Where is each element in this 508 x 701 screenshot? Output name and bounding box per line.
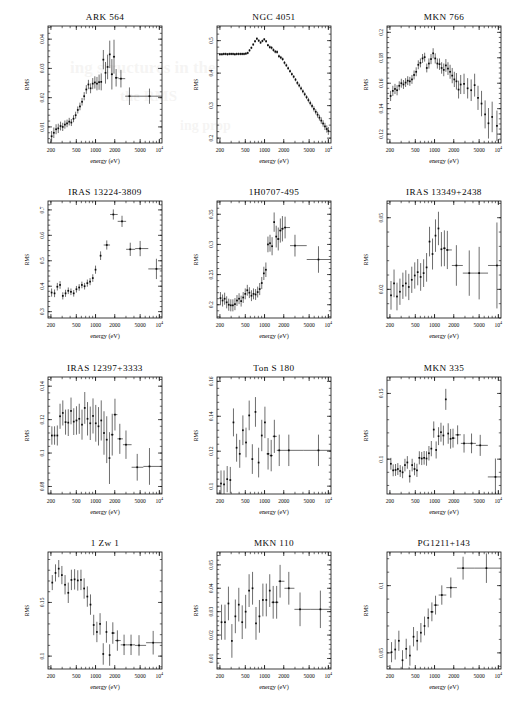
- x-tick-label: 5000: [473, 673, 484, 679]
- y-tick-label: 0.03: [208, 606, 214, 616]
- x-tick-label: 1000: [259, 673, 270, 679]
- y-tick-label: 0.2: [208, 134, 214, 141]
- y-axis-label: RMS: [24, 254, 30, 265]
- x-tick-label: 2000: [448, 498, 459, 504]
- x-tick-label: 200: [47, 322, 56, 328]
- x-tick-label: 500: [241, 147, 250, 153]
- x-tick-label: 200: [216, 498, 225, 504]
- plot-frame: [217, 552, 331, 669]
- x-tick-label: 2000: [448, 147, 459, 153]
- x-axis-label: energy (eV): [260, 332, 290, 340]
- plot-frame: [217, 26, 331, 143]
- y-tick-label: 0.12: [378, 129, 384, 139]
- y-tick-label: 0.05: [208, 560, 214, 570]
- panel-title: IRAS 12397+3333: [67, 363, 143, 373]
- panel-title: PG1211+143: [417, 538, 470, 548]
- y-tick-label: 0.2: [208, 301, 214, 308]
- x-tick-label: 1000: [429, 147, 440, 153]
- x-tick-label: 200: [385, 322, 394, 328]
- y-tick-label: 0.3: [208, 102, 214, 109]
- y-tick-label: 0.18: [378, 53, 384, 63]
- chart-panel-6: 2005001000200050001040.020.05IRAS 13349+…: [339, 175, 508, 350]
- y-axis-label: RMS: [193, 254, 199, 265]
- chart-panel-7: 2005001000200050001040.080.10.120.14IRAS…: [0, 351, 169, 526]
- x-axis-label: energy (eV): [429, 157, 459, 165]
- x-tick-label: 104: [325, 496, 334, 504]
- data-series: [220, 397, 331, 498]
- y-axis-label: RMS: [193, 605, 199, 616]
- y-tick-label: 0.16: [208, 376, 214, 386]
- chart-panel-8: 2005001000200050001040.10.120.140.16Ton …: [169, 351, 338, 526]
- x-axis-label: energy (eV): [260, 508, 290, 516]
- y-tick-label: 0.4: [39, 283, 45, 290]
- data-series: [221, 565, 331, 658]
- data-series: [390, 553, 500, 670]
- y-tick-label: 0.16: [378, 78, 384, 88]
- plot-frame: [48, 201, 162, 318]
- x-tick-label: 200: [47, 498, 56, 504]
- x-tick-label: 200: [385, 673, 394, 679]
- data-series: [390, 388, 501, 494]
- x-tick-label: 5000: [304, 498, 315, 504]
- chart-panel-3: 2005001000200050001040.120.140.160.180.2…: [339, 0, 508, 175]
- chart-panel-2: 2005001000200050001040.20.30.40.5NGC 405…: [169, 0, 338, 175]
- x-axis-label: energy (eV): [90, 332, 120, 340]
- panel-title: Ton S 180: [254, 363, 295, 373]
- x-tick-label: 1000: [90, 147, 101, 153]
- x-tick-label: 2000: [109, 498, 120, 504]
- panel-title: 1H0707-495: [249, 188, 299, 198]
- data-series: [51, 40, 162, 142]
- chart-panel-11: 2005001000200050001040.010.020.030.040.0…: [169, 526, 338, 701]
- plot-frame: [48, 377, 162, 494]
- x-axis-label: energy (eV): [429, 332, 459, 340]
- x-tick-label: 2000: [448, 322, 459, 328]
- x-tick-label: 500: [241, 673, 250, 679]
- x-axis-label: energy (eV): [260, 157, 290, 165]
- x-tick-label: 104: [325, 321, 334, 329]
- x-tick-label: 500: [411, 322, 420, 328]
- x-tick-label: 5000: [135, 322, 146, 328]
- data-series: [219, 37, 329, 135]
- x-axis-label: energy (eV): [260, 683, 290, 691]
- y-tick-label: 0.05: [378, 213, 384, 223]
- x-tick-label: 1000: [429, 498, 440, 504]
- x-tick-label: 1000: [259, 498, 270, 504]
- y-tick-label: 0.02: [378, 285, 384, 295]
- data-series: [51, 392, 162, 485]
- panel-title: IRAS 13349+2438: [406, 188, 482, 198]
- y-axis-label: RMS: [363, 429, 369, 440]
- x-tick-label: 104: [156, 671, 165, 679]
- x-tick-label: 2000: [109, 147, 120, 153]
- x-axis-label: energy (eV): [90, 508, 120, 516]
- y-tick-label: 0.03: [39, 63, 45, 73]
- panel-title: NGC 4051: [253, 12, 296, 22]
- x-tick-label: 2000: [448, 673, 459, 679]
- x-tick-label: 1000: [429, 322, 440, 328]
- y-tick-label: 0.7: [39, 206, 45, 213]
- x-tick-label: 5000: [473, 147, 484, 153]
- plot-frame: [387, 552, 501, 669]
- x-tick-label: 500: [72, 498, 81, 504]
- chart-panel-4: 2005001000200050001040.30.40.50.60.7IRAS…: [0, 175, 169, 350]
- x-tick-label: 104: [325, 145, 334, 153]
- x-tick-label: 2000: [278, 322, 289, 328]
- x-tick-label: 200: [47, 673, 56, 679]
- y-tick-label: 0.15: [378, 388, 384, 398]
- y-tick-label: 0.1: [208, 482, 214, 489]
- data-series: [390, 212, 501, 311]
- x-tick-label: 104: [494, 671, 503, 679]
- data-series: [51, 560, 162, 666]
- chart-panel-10: 2005001000200050001040.10.151 Zw 1energy…: [0, 526, 169, 701]
- x-tick-label: 104: [156, 496, 165, 504]
- x-tick-label: 5000: [473, 322, 484, 328]
- x-tick-label: 200: [385, 498, 394, 504]
- y-tick-label: 0.3: [39, 308, 45, 315]
- panel-title: MKN 110: [254, 538, 294, 548]
- data-series: [389, 48, 497, 141]
- panel-title: 1 Zw 1: [91, 538, 119, 548]
- x-tick-label: 1000: [259, 147, 270, 153]
- x-tick-label: 104: [494, 145, 503, 153]
- panel-title: MKN 766: [423, 12, 463, 22]
- panel-title: ARK 564: [86, 12, 124, 22]
- y-tick-label: 0.1: [39, 652, 45, 659]
